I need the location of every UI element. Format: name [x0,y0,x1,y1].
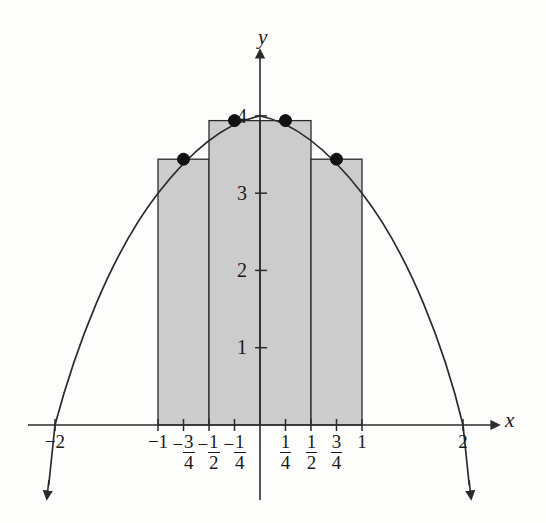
fraction-positive-half: 12 [306,432,318,473]
fraction-quarter: 14 [234,432,246,473]
x-tick-label-quarter: 14 [274,432,297,473]
fraction-numerator: 1 [280,432,292,452]
x-tick-label-half: 12 [300,432,323,473]
minus-sign-quarter: − [223,435,234,454]
fraction-positive-three-quarters: 34 [331,432,343,473]
fraction-positive-quarter: 14 [280,432,292,473]
midpoint-dot-1 [178,153,190,165]
minus-sign-three-quarters: − [172,435,183,454]
fraction-numerator: 3 [331,432,343,452]
riemann-rectangle-3 [260,121,311,425]
x-tick-label-three-quarters: 34 [325,432,348,473]
fraction-numerator: 1 [234,432,246,452]
curve-arrow-right [469,480,470,492]
fraction-denominator: 4 [331,452,343,473]
fraction-denominator: 4 [234,452,246,473]
fraction-denominator: 4 [280,452,292,473]
x-tick-label-two: 2 [451,432,475,451]
x-tick-label-one: 1 [350,432,374,451]
midpoint-dot-3 [280,115,292,127]
x-tick-label-minus-quarter: −14 [218,432,251,473]
y-tick-label-4: 4 [225,105,247,128]
y-tick-label-2: 2 [225,259,247,282]
curve-arrow-left [48,480,49,492]
y-axis-label: y [258,25,267,50]
x-axis-label: x [505,408,514,433]
riemann-rectangle-1 [158,159,209,425]
y-tick-label-3: 3 [225,182,247,205]
riemann-rectangle-4 [311,159,362,425]
y-tick-label-1: 1 [225,336,247,359]
fraction-numerator: 1 [306,432,318,452]
x-tick-label-minus-two: −2 [39,432,71,451]
fraction-denominator: 2 [306,452,318,473]
midpoint-dot-4 [331,153,343,165]
minus-sign-half: − [197,435,208,454]
riemann-sum-figure: y x 1 2 3 4 −2 −1 −34 −12 −14 14 12 34 1… [0,0,546,523]
